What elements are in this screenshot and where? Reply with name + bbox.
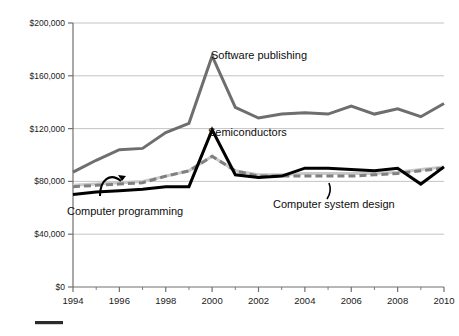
y-axis-tick-label: $40,000 [34, 229, 65, 239]
line-chart: $200,000$160,000$120,000$80,000$40,000$0… [0, 0, 459, 336]
x-axis-tick-label: 2010 [433, 295, 454, 306]
footer-rule [35, 321, 63, 324]
y-axis-tick-label: $160,000 [30, 71, 66, 81]
x-axis-tick-label: 2000 [202, 295, 223, 306]
computer-system-design-label: Computer system design [273, 198, 395, 210]
chart-container: $200,000$160,000$120,000$80,000$40,000$0… [0, 0, 459, 336]
computer-programming-label: Computer programming [67, 205, 183, 217]
y-axis-tick-label: $0 [56, 282, 66, 292]
y-axis-tick-label: $80,000 [34, 176, 65, 186]
x-axis-tick-label: 2004 [294, 295, 315, 306]
x-axis-tick-label: 1996 [109, 295, 130, 306]
x-axis-tick-label: 1994 [62, 295, 83, 306]
x-axis-tick-label: 2002 [248, 295, 269, 306]
semiconductors-label: Semiconductors [208, 126, 287, 138]
x-axis-tick-labels: 199419961998200020022004200620082010 [62, 295, 454, 306]
y-axis-tick-label: $120,000 [30, 124, 66, 134]
software-publishing-label: Software publishing [211, 49, 307, 61]
x-axis-tick-label: 2006 [341, 295, 362, 306]
x-axis-tick-label: 1998 [155, 295, 176, 306]
x-axis-tick-label: 2008 [387, 295, 408, 306]
y-axis-tick-label: $200,000 [30, 18, 66, 28]
